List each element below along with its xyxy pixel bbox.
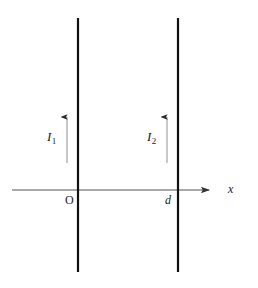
- current-label-1: I1: [47, 130, 56, 146]
- current-label-2-symbol: I: [147, 129, 151, 144]
- current-label-1-symbol: I: [47, 129, 51, 144]
- origin-label: O: [65, 194, 74, 206]
- x-axis-label: x: [228, 183, 233, 195]
- physics-diagram-two-parallel-wires: I1 I2 O d x: [0, 0, 258, 288]
- current-label-1-subscript: 1: [52, 136, 57, 146]
- diagram-canvas: [0, 0, 258, 288]
- current-label-2-subscript: 2: [152, 136, 157, 146]
- current-label-2: I2: [147, 130, 156, 146]
- separation-label: d: [165, 194, 171, 206]
